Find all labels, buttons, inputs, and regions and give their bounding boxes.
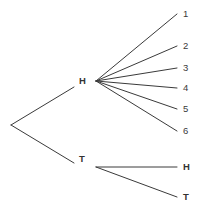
edge-heads-to-3	[96, 68, 177, 81]
leaf-label-heads-5: 5	[183, 104, 188, 114]
node-heads-label: H	[79, 76, 86, 86]
probability-tree-diagram: HT123456HT	[0, 0, 200, 211]
leaf-label-heads-3: 3	[183, 63, 188, 73]
edge-tails-to-T	[96, 167, 177, 197]
node-tails-label: T	[79, 154, 85, 164]
edge-root-to-h-0	[11, 87, 74, 125]
edge-heads-to-4	[96, 81, 177, 88]
edge-heads-to-2	[96, 46, 177, 81]
leaf-label-heads-6: 6	[183, 126, 188, 136]
tree-edges-canvas	[0, 0, 200, 211]
leaf-label-heads-4: 4	[183, 83, 188, 93]
edges-group	[11, 14, 177, 197]
leaf-label-heads-2: 2	[183, 41, 188, 51]
edge-root-to-t-1	[11, 125, 74, 163]
edge-heads-to-6	[96, 81, 177, 131]
leaf-label-tails-H: H	[183, 162, 190, 172]
edge-heads-to-1	[96, 14, 177, 81]
edge-heads-to-5	[96, 81, 177, 109]
leaf-label-tails-T: T	[183, 192, 189, 202]
leaf-label-heads-1: 1	[183, 9, 188, 19]
